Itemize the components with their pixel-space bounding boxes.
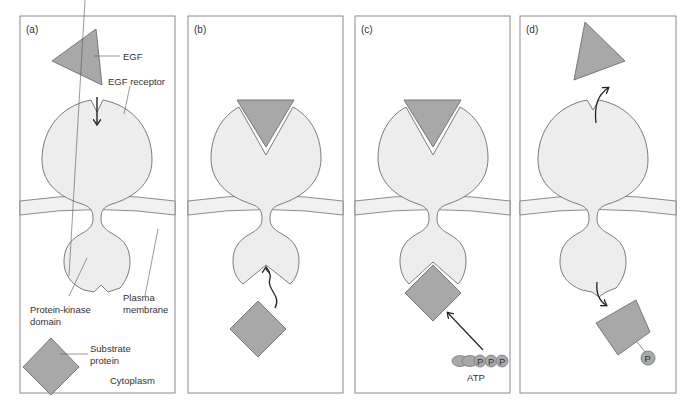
panel-label-d: (d) (526, 24, 538, 35)
atp-molecule: P P P (452, 355, 508, 367)
panel-d: P (d) (520, 16, 676, 393)
phosphate-2: P (488, 356, 494, 367)
panel-label-a: (a) (26, 24, 38, 35)
panel-label-c: (c) (361, 24, 373, 35)
panel-b: (b) (188, 16, 343, 393)
label-atp: ATP (467, 372, 485, 383)
label-egf: EGF (123, 51, 143, 62)
label-cytoplasm: Cytoplasm (110, 375, 155, 386)
egf-signaling-diagram: (a) EGF EGF receptor Protein-kinase doma… (0, 0, 690, 409)
panel-label-b: (b) (194, 24, 206, 35)
phosphate-1: P (477, 356, 483, 367)
panel-a: (a) EGF EGF receptor Protein-kinase doma… (20, 0, 175, 395)
label-substrate-2: protein (90, 355, 119, 366)
panel-c: P P P ATP (c) (355, 16, 510, 393)
label-plasma-1: Plasma (123, 292, 155, 303)
phosphate-label: P (645, 353, 651, 364)
label-protein-kinase-1: Protein-kinase (30, 304, 91, 315)
phosphate-3: P (499, 356, 505, 367)
label-plasma-2: membrane (123, 304, 168, 315)
label-substrate-1: Substrate (90, 343, 131, 354)
label-protein-kinase-2: domain (30, 316, 61, 327)
label-egf-receptor: EGF receptor (108, 76, 165, 87)
